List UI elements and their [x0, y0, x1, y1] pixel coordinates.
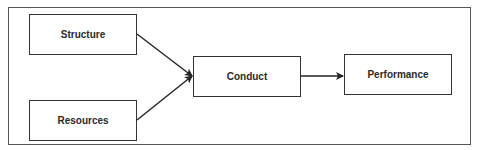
node-structure: Structure — [29, 14, 137, 55]
node-conduct: Conduct — [193, 56, 301, 97]
node-performance-label: Performance — [367, 69, 428, 80]
node-resources-label: Resources — [57, 115, 108, 126]
node-performance: Performance — [344, 54, 452, 95]
arrow-structure-to-conduct — [137, 34, 192, 76]
node-conduct-label: Conduct — [227, 71, 268, 82]
arrow-resources-to-conduct — [137, 76, 192, 120]
node-structure-label: Structure — [61, 29, 105, 40]
node-resources: Resources — [29, 100, 137, 141]
